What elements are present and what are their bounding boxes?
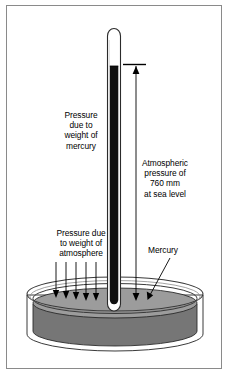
mercury-column — [110, 66, 119, 304]
label-pressure-due-to-weight-of-mercury: Pressure due to weight of mercury — [48, 110, 114, 151]
mercury-leader-line — [150, 258, 170, 295]
label-atmospheric-pressure: Atmospheric pressure of 760 mm at sea le… — [130, 158, 200, 199]
label-line: 760 mm — [130, 178, 200, 188]
label-line: mercury — [48, 141, 114, 151]
barometer-tube — [108, 29, 121, 312]
label-line: due to — [48, 120, 114, 130]
figure-canvas: Pressure due to weight of mercury Atmosp… — [0, 0, 230, 376]
label-line: atmosphere — [40, 248, 122, 258]
label-line: Mercury — [148, 245, 202, 255]
label-pressure-due-to-weight-of-atmosphere: Pressure due to weight of atmosphere — [40, 228, 122, 259]
label-line: at sea level — [130, 189, 200, 199]
measurement-arrowhead-up — [133, 66, 140, 74]
label-line: pressure of — [130, 168, 200, 178]
label-line: Pressure due — [40, 228, 122, 238]
label-line: Atmospheric — [130, 158, 200, 168]
label-line: Pressure — [48, 110, 114, 120]
label-mercury: Mercury — [148, 245, 202, 255]
label-line: weight of — [48, 130, 114, 140]
label-line: to weight of — [40, 238, 122, 248]
